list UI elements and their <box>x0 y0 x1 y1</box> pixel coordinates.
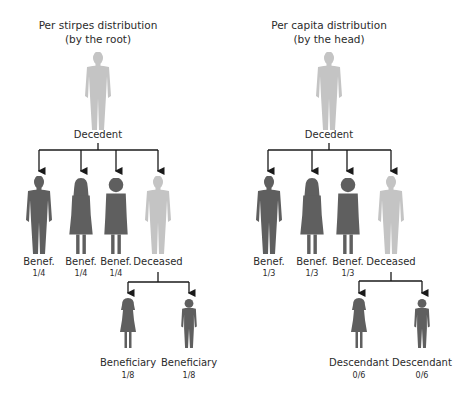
left-root-figure <box>85 52 111 131</box>
right-child-label-4: Deceased <box>361 256 421 268</box>
right-root-figure <box>316 52 342 131</box>
right-grandchild-label-2: Descendant <box>387 357 457 369</box>
right-root-label: Decedent <box>289 129 369 141</box>
left-child-share-3: 1/4 <box>91 268 141 280</box>
right-grandchild-label-1: Descendant <box>324 357 394 369</box>
left-title-line2: (by the root) <box>18 32 178 46</box>
right-title-line2: (by the head) <box>249 32 409 46</box>
left-grandchild-label-2: Beneficiary <box>154 357 224 369</box>
right-grandchild-share-1: 0/6 <box>324 370 394 382</box>
left-root-label: Decedent <box>58 129 138 141</box>
left-child-figures <box>26 176 171 255</box>
left-grandchild-share-2: 1/8 <box>154 370 224 382</box>
left-grandchild-share-1: 1/8 <box>93 370 163 382</box>
right-child-figures <box>256 176 404 255</box>
left-grandchild-label-1: Beneficiary <box>93 357 163 369</box>
right-title-line1: Per capita distribution <box>249 18 409 32</box>
right-grandchild-share-2: 0/6 <box>387 370 457 382</box>
family-tree-diagram <box>0 0 475 397</box>
left-child-label-4: Deceased <box>128 256 188 268</box>
left-title-line1: Per stirpes distribution <box>18 18 178 32</box>
right-grandchild-figures <box>351 298 430 348</box>
right-child-share-3: 1/3 <box>323 268 373 280</box>
left-grandchild-figures <box>120 298 197 348</box>
